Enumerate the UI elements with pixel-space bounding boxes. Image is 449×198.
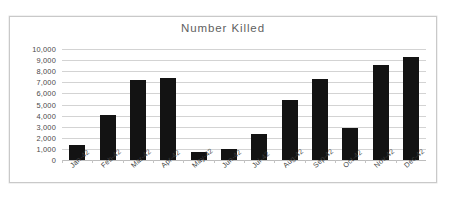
y-axis-tick-label: 4,000 xyxy=(37,111,57,120)
x-axis-tick-labels: Jan-42Feb-42Mar-42Apr-42May-42Jun-42Jul-… xyxy=(62,163,426,197)
bar xyxy=(130,80,146,160)
chart-frame: Number Killed 10,0009,0008,0007,0006,000… xyxy=(9,16,437,183)
bar xyxy=(403,57,419,160)
y-axis-tick-label: 0 xyxy=(52,156,56,165)
bar xyxy=(373,65,389,160)
bar xyxy=(312,79,328,160)
y-axis-tick-label: 6,000 xyxy=(37,89,57,98)
y-axis-tick-label: 9,000 xyxy=(37,56,57,65)
y-axis-tick-label: 5,000 xyxy=(37,100,57,109)
y-axis-tick-label: 2,000 xyxy=(37,133,57,142)
chart-screenshot: Number Killed 10,0009,0008,0007,0006,000… xyxy=(0,0,449,198)
chart-title: Number Killed xyxy=(10,22,436,34)
y-axis-tick-label: 8,000 xyxy=(37,67,57,76)
y-axis-tick-label: 1,000 xyxy=(37,144,57,153)
y-axis-tick-label: 10,000 xyxy=(32,45,56,54)
y-axis-tick-label: 7,000 xyxy=(37,78,57,87)
bar-series xyxy=(62,49,426,160)
y-axis-tick-label: 3,000 xyxy=(37,122,57,131)
y-axis-tick-labels: 10,0009,0008,0007,0006,0005,0004,0003,00… xyxy=(10,49,60,160)
plot-area xyxy=(62,49,426,160)
bar xyxy=(160,78,176,160)
